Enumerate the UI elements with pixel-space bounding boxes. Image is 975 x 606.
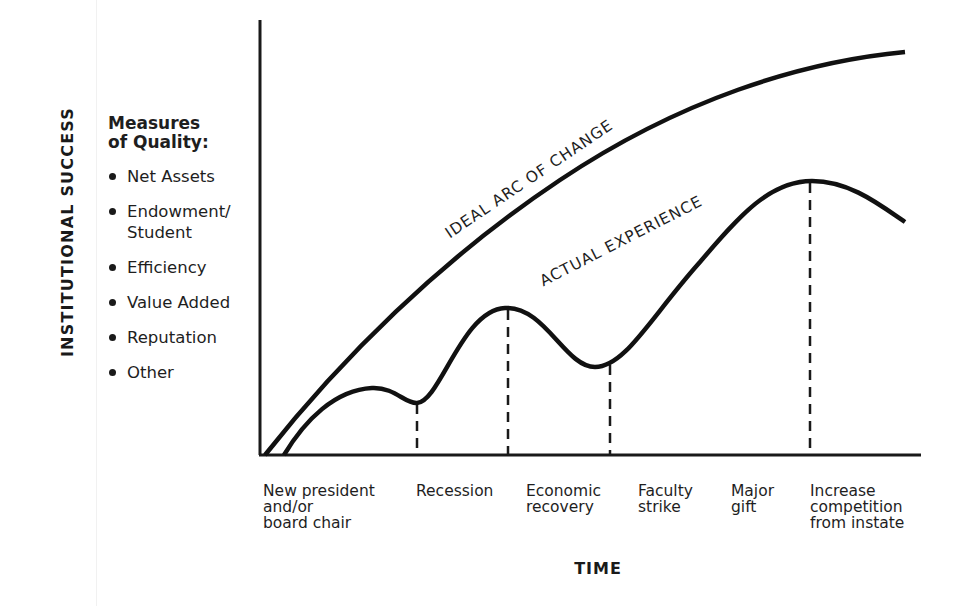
actual-experience-curve	[284, 181, 905, 455]
event-major-gift: Major gift	[731, 483, 774, 515]
event-economic-recovery: Economic recovery	[526, 483, 601, 515]
event-faculty-strike: Faculty strike	[638, 483, 693, 515]
event-recession: Recession	[416, 483, 493, 499]
event-new-president: New president and/or board chair	[263, 483, 375, 531]
event-increase-competition: Increase competition from instate	[810, 483, 904, 531]
x-axis-title: TIME	[574, 559, 622, 578]
